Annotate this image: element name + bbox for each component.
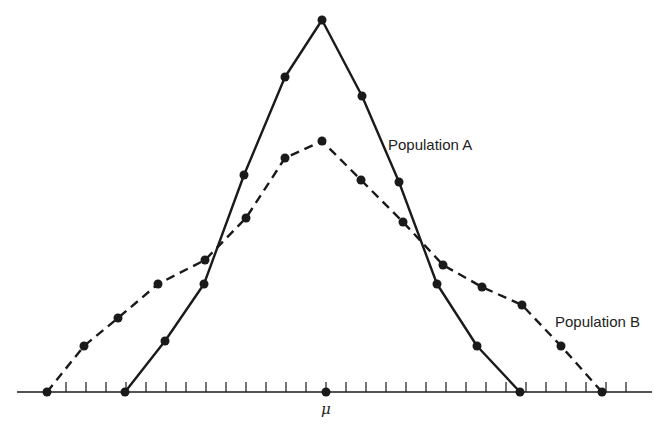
data-point [439, 261, 448, 270]
data-point [433, 280, 442, 289]
data-point [200, 280, 209, 289]
data-point [161, 337, 170, 346]
distribution-chart [0, 0, 672, 430]
population-a-label: Population A [388, 136, 472, 153]
population-b-label: Population B [555, 313, 640, 330]
data-point [201, 256, 210, 265]
data-point [478, 283, 487, 292]
series-group [43, 16, 607, 397]
data-point [357, 176, 366, 185]
data-point [240, 171, 249, 180]
series-population-b [43, 137, 607, 397]
series-line [47, 141, 602, 392]
series-line [125, 20, 520, 392]
data-point [358, 92, 367, 101]
data-point [518, 301, 527, 310]
data-point [557, 342, 566, 351]
data-point [473, 342, 482, 351]
data-point [516, 388, 525, 397]
data-point [318, 137, 327, 146]
data-point [281, 73, 290, 82]
data-point [43, 388, 52, 397]
series-population-a [121, 16, 525, 397]
data-point [80, 342, 89, 351]
data-point [242, 214, 251, 223]
mean-label: μ [321, 400, 331, 418]
data-point [395, 178, 404, 187]
data-point [121, 388, 130, 397]
data-point [114, 314, 123, 323]
x-axis [17, 382, 652, 397]
mean-marker [322, 388, 331, 397]
data-point [598, 388, 607, 397]
data-point [281, 154, 290, 163]
data-point [154, 280, 163, 289]
data-point [318, 16, 327, 25]
data-point [399, 218, 408, 227]
